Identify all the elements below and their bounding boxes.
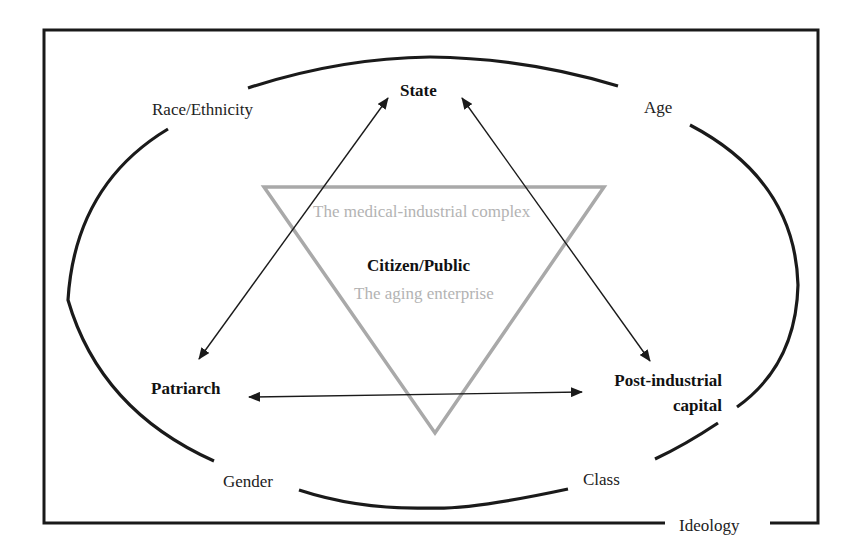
arrow-patriarch-capital bbox=[249, 392, 582, 397]
arrow-state-capital bbox=[462, 98, 650, 361]
label-age: Age bbox=[644, 99, 672, 116]
label-gender: Gender bbox=[223, 473, 273, 490]
label-race-ethnicity: Race/Ethnicity bbox=[152, 101, 253, 118]
label-ideology: Ideology bbox=[679, 517, 739, 534]
node-post-industrial: Post-industrial bbox=[590, 372, 722, 389]
label-medical-industrial-complex: The medical-industrial complex bbox=[313, 203, 530, 220]
structure-ellipse bbox=[68, 57, 798, 508]
label-aging-enterprise: The aging enterprise bbox=[354, 285, 494, 302]
arrow-patriarch-state bbox=[199, 98, 388, 359]
node-state: State bbox=[400, 82, 437, 99]
node-capital: capital bbox=[590, 397, 722, 414]
node-citizen-public: Citizen/Public bbox=[367, 257, 470, 274]
node-patriarch: Patriarch bbox=[151, 380, 221, 397]
label-class: Class bbox=[583, 471, 620, 488]
